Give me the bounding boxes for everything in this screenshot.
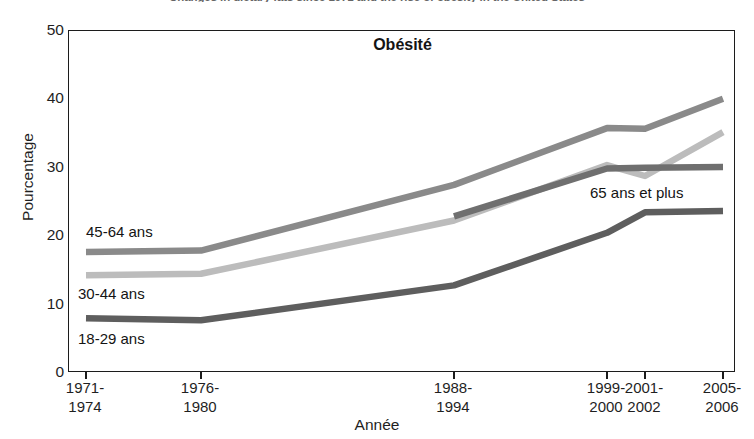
y-tick-30: 30	[24, 159, 64, 175]
x-tick-mark	[722, 372, 724, 379]
obesity-line-chart-figure: Changes in dietary fats since 1971 and t…	[0, 0, 754, 439]
y-tick-50: 50	[24, 22, 64, 38]
series-label-18-29-ans: 18-29 ans	[78, 330, 145, 347]
y-tick-10: 10	[24, 296, 64, 312]
x-axis-label: Année	[0, 416, 754, 434]
x-tick-mark	[453, 372, 455, 379]
y-tick-40: 40	[24, 90, 64, 106]
x-tick-mark	[644, 372, 646, 379]
x-tick-1988-1994: 1988-1994	[408, 378, 498, 416]
y-tick-20: 20	[24, 227, 64, 243]
series-lines	[69, 31, 736, 373]
plot-area: Obésité	[68, 30, 735, 372]
series-label-45-64-ans: 45-64 ans	[86, 223, 153, 240]
figure-caption: Changes in dietary fats since 1971 and t…	[0, 0, 754, 2]
x-tick-mark	[200, 372, 202, 379]
series-label-30-44-ans: 30-44 ans	[78, 285, 145, 302]
x-tick-1976-1980: 1976-1980	[155, 378, 245, 416]
series-label-65-ans-et-plus: 65 ans et plus	[590, 184, 683, 201]
x-tick-2001-2002: 2001-2002	[599, 378, 689, 416]
series-line-18-29-ans	[86, 211, 723, 320]
x-tick-1971-1974: 1971-1974	[40, 378, 130, 416]
x-tick-mark	[85, 372, 87, 379]
x-tick-2005-2006: 2005-2006	[677, 378, 754, 416]
